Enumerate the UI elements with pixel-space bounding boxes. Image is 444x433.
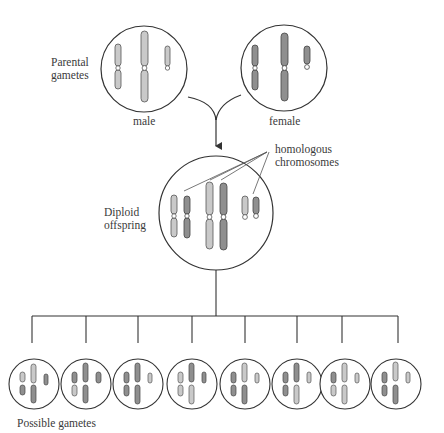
male-gamete-circle bbox=[101, 26, 187, 112]
possible-gamete-3 bbox=[113, 359, 163, 409]
female-label: female bbox=[269, 115, 300, 127]
gamete-branch-tree bbox=[32, 270, 398, 343]
possible-gamete-2 bbox=[61, 359, 111, 409]
diploid-offspring-label-line1: Diploid bbox=[104, 206, 139, 218]
possible-gamete-4 bbox=[167, 359, 217, 409]
female-gamete-circle bbox=[241, 25, 327, 111]
homologous-chromosomes-label-line1: homologous bbox=[275, 143, 332, 155]
fertilization-arrow bbox=[188, 95, 241, 146]
possible-gamete-6 bbox=[272, 359, 322, 409]
diploid-offspring-label-line2: offspring bbox=[104, 219, 146, 231]
possible-gamete-1 bbox=[9, 359, 59, 409]
parental-gametes-label-line1: Parental bbox=[51, 56, 89, 68]
possible-gametes-row bbox=[9, 359, 421, 409]
possible-gamete-5 bbox=[220, 359, 270, 409]
male-label: male bbox=[133, 115, 155, 127]
diploid-offspring-circle bbox=[159, 156, 273, 270]
homologous-chromosomes-label-line2: chromosomes bbox=[275, 156, 339, 168]
possible-gamete-7 bbox=[320, 359, 370, 409]
parental-gametes-label-line2: gametes bbox=[51, 69, 89, 81]
possible-gamete-8 bbox=[371, 359, 421, 409]
possible-gametes-label: Possible gametes bbox=[17, 417, 96, 429]
